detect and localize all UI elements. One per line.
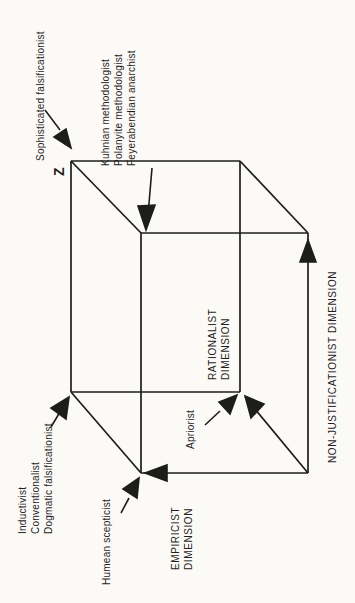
scanned-figure-page: Z Sophisticated falsificationist Kuhnian…	[0, 0, 355, 603]
non-justificationist-dimension-axis-label: NON-JUSTIFICATIONIST DIMENSION	[326, 271, 339, 463]
inductivist-label-block: Inductivist Conventionalist Dogmatic fal…	[16, 423, 55, 534]
rationalist-axis-line: RATIONALIST	[206, 309, 219, 380]
non-justificationist-axis-arrowhead	[300, 240, 316, 262]
empiricist-axis-line: DIMENSION	[182, 507, 195, 570]
kuhnian-arrow	[138, 168, 155, 230]
rationalist-axis-arrowhead	[245, 396, 264, 418]
kuhnian-label-line: Kuhnian methodologist	[99, 50, 112, 166]
apriorist-label: Apriorist	[184, 410, 197, 449]
sophisticated-arrow	[45, 110, 71, 148]
kuhnian-label-block: Kuhnian methodologist Polanyite methodol…	[99, 50, 138, 166]
empiricist-dimension-axis-label: EMPIRICIST DIMENSION	[169, 507, 195, 570]
inductivist-label-line: Inductivist	[16, 423, 29, 534]
corner-z-label: Z	[52, 167, 66, 176]
inductivist-label-line: Dogmatic falsificationist	[42, 423, 55, 534]
apriorist-arrow	[205, 395, 237, 425]
rationalist-dimension-axis-label: RATIONALIST DIMENSION	[206, 309, 232, 380]
kuhnian-label-line: Polanyite methodologist	[112, 50, 125, 166]
empiricist-axis-arrowhead	[145, 465, 167, 481]
humean-arrow	[121, 478, 139, 513]
kuhnian-label-line: Feyerabendian anarchist	[125, 50, 138, 166]
cube-edge-diagonal-c	[71, 392, 141, 473]
cube-edge-diagonal-a	[71, 161, 141, 233]
cube-edge-diagonal-b	[240, 161, 308, 233]
inductivist-label-line: Conventionalist	[29, 423, 42, 534]
humean-scepticist-label: Humean scepticist	[100, 499, 113, 585]
rationalist-axis-line: DIMENSION	[219, 309, 232, 380]
empiricist-axis-line: EMPIRICIST	[169, 507, 182, 570]
sophisticated-falsificationist-label: Sophisticated falsificationist	[34, 31, 47, 161]
